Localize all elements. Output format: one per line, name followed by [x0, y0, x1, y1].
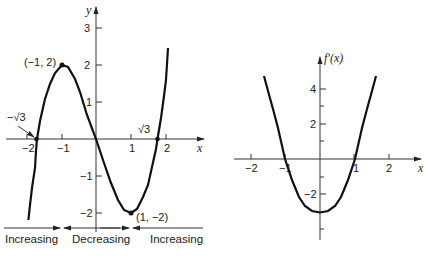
right-plot: −2 −1 1 2 4 2 −2 f′(x) x — [234, 51, 424, 240]
right-x-tick-label: −2 — [245, 162, 258, 174]
left-x-tick-label: 1 — [129, 142, 135, 154]
left-x-tick-label: 2 — [164, 142, 170, 154]
left-y-ticks — [96, 28, 102, 213]
right-x-tick-label: 2 — [386, 162, 392, 174]
left-y-tick-label: −1 — [80, 170, 93, 182]
left-y-tick-label: 1 — [86, 96, 92, 108]
left-y-tick-label: 2 — [84, 59, 90, 71]
left-y-tick-label: 3 — [84, 22, 90, 34]
svg-text:√3: √3 — [138, 123, 150, 135]
left-plot: −2 −1 1 2 3 2 1 −1 −2 y x (−1, 2) (1, −2… — [4, 3, 204, 245]
right-x-axis-label: x — [417, 161, 424, 175]
local-min-label: (1, −2) — [136, 211, 168, 223]
neg-root-annotation: −√3 — [7, 111, 34, 137]
right-y-tick-label: 2 — [310, 118, 316, 130]
right-y-tick-label: −2 — [304, 188, 317, 200]
left-x-tick-label: −2 — [22, 142, 35, 154]
left-y-tick-label: −2 — [80, 207, 93, 219]
left-y-axis-label: y — [85, 3, 92, 17]
monotonic-intervals: Increasing Decreasing Increasing — [4, 228, 203, 245]
interval-label-decreasing: Decreasing — [72, 233, 130, 245]
interval-label-increasing-left: Increasing — [5, 233, 58, 245]
pos-root-point — [155, 137, 160, 142]
svg-text:−√3: −√3 — [7, 111, 26, 123]
left-x-tick-label: −1 — [57, 142, 70, 154]
neg-root-point — [34, 137, 39, 142]
local-min-point — [129, 211, 134, 216]
left-x-axis-label: x — [196, 141, 203, 155]
right-y-axis-label: f′(x) — [324, 51, 343, 65]
pos-root-annotation: √3 — [138, 123, 150, 135]
interval-label-increasing-right: Increasing — [150, 233, 203, 245]
right-y-tick-label: 4 — [310, 83, 316, 95]
local-max-point — [60, 63, 65, 68]
local-max-label: (−1, 2) — [24, 56, 56, 68]
figure: −2 −1 1 2 3 2 1 −1 −2 y x (−1, 2) (1, −2… — [0, 0, 425, 256]
